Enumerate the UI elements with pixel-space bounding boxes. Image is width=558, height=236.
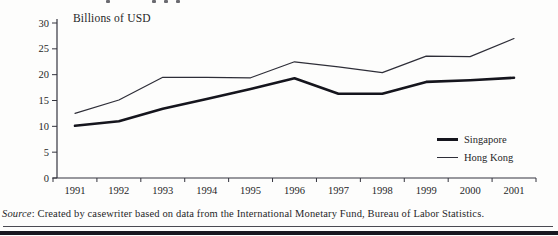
y-tick-label: 10 [39,121,50,132]
divider-thin [3,226,553,227]
chart-svg: 0510152025301991199219931994199519961997… [0,0,558,205]
legend-item-hong-kong: Hong Kong [437,151,513,164]
legend-label-hong-kong: Hong Kong [464,152,513,163]
x-tick-label: 1993 [152,185,173,196]
x-tick-label: 1994 [196,185,218,196]
y-tick-label: 0 [44,173,49,184]
x-tick-label: 2000 [460,185,481,196]
divider-thick [0,231,558,235]
y-tick-label: 25 [39,43,50,54]
legend: Singapore Hong Kong [437,133,513,169]
legend-line-singapore-icon [437,138,458,141]
x-tick-label: 1999 [416,185,437,196]
exhibit-figure: Billions of USD 051015202530199119921993… [0,0,558,236]
legend-line-hong-kong-icon [437,157,458,158]
y-tick-label: 20 [39,69,50,80]
series-line-hong-kong [75,39,514,114]
x-tick-label: 1997 [328,185,349,196]
x-tick-label: 1996 [284,185,305,196]
series-line-singapore [75,78,514,126]
source-note-text: : Created by casewriter based on data fr… [32,208,485,219]
legend-item-singapore: Singapore [437,133,513,146]
x-tick-label: 1992 [108,185,129,196]
y-tick-label: 5 [44,147,49,158]
y-tick-label: 15 [39,95,50,106]
x-tick-label: 1991 [64,185,85,196]
legend-label-singapore: Singapore [464,134,507,145]
y-tick-label: 30 [39,18,50,29]
x-tick-label: 1998 [372,185,393,196]
x-tick-label: 1995 [240,185,261,196]
source-note-prefix: Source [2,208,32,219]
source-note: Source: Created by casewriter based on d… [2,208,542,219]
x-tick-label: 2001 [504,185,525,196]
